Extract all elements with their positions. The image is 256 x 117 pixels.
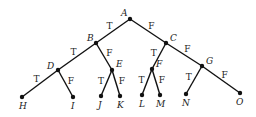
node-O-dot-icon xyxy=(238,91,242,95)
edge-D-H xyxy=(22,70,58,97)
node-label-H: H xyxy=(18,101,27,111)
edge-label-F-M: F xyxy=(159,75,165,85)
edge-label-D-H: T xyxy=(33,74,39,84)
decision-tree-diagram: TFTFTFTFTFTFTF ABCDEFGHIJKLMNO xyxy=(0,0,256,117)
edge-label-E-K: F xyxy=(119,76,125,86)
node-M-dot-icon xyxy=(158,93,162,97)
node-label-E: E xyxy=(115,59,123,69)
edge-label-B-D: T xyxy=(71,47,77,57)
node-A-dot-icon xyxy=(128,17,132,21)
node-G-dot-icon xyxy=(200,64,204,68)
edge-label-G-O: F xyxy=(221,70,227,80)
node-label-J: J xyxy=(96,100,103,110)
edge-label-D-I: F xyxy=(68,76,74,86)
node-F-dot-icon xyxy=(150,67,154,71)
node-label-B: B xyxy=(86,33,94,43)
edge-A-B xyxy=(96,19,130,43)
node-J-dot-icon xyxy=(99,94,103,98)
edge-label-A-C: F xyxy=(148,21,154,31)
node-H-dot-icon xyxy=(20,95,24,99)
node-label-G: G xyxy=(206,56,213,66)
node-label-C: C xyxy=(170,33,177,43)
node-label-O: O xyxy=(236,97,244,107)
node-label-D: D xyxy=(46,61,54,71)
node-C-dot-icon xyxy=(164,41,168,45)
node-label-M: M xyxy=(155,99,166,109)
edge-label-B-E: F xyxy=(106,48,112,58)
edge-label-A-B: T xyxy=(107,21,113,31)
node-I-dot-icon xyxy=(71,95,75,99)
edge-label-C-G: F xyxy=(184,44,190,54)
node-N-dot-icon xyxy=(184,92,188,96)
edge-label-E-J: T xyxy=(98,76,104,86)
node-label-K: K xyxy=(116,100,125,110)
tree-nodes: ABCDEFGHIJKLMNO xyxy=(18,8,244,111)
edge-B-D xyxy=(58,43,96,70)
node-D-dot-icon xyxy=(56,68,60,72)
edge-label-G-N: T xyxy=(186,72,192,82)
node-B-dot-icon xyxy=(94,41,98,45)
edge-label-C-F: T xyxy=(151,48,157,58)
node-label-I: I xyxy=(70,101,75,111)
edge-label-F-L: T xyxy=(138,75,144,85)
node-E-dot-icon xyxy=(110,68,114,72)
node-label-N: N xyxy=(181,98,191,108)
node-label-L: L xyxy=(138,99,145,109)
node-label-A: A xyxy=(120,8,128,18)
node-K-dot-icon xyxy=(118,94,122,98)
node-label-F: F xyxy=(155,59,163,69)
node-L-dot-icon xyxy=(140,93,144,97)
